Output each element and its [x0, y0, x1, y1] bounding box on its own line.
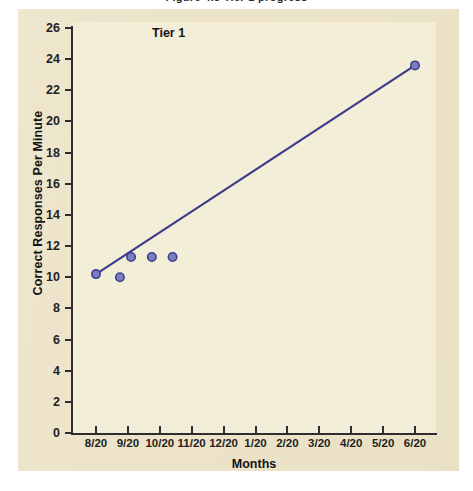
x-tick-mark — [223, 426, 225, 434]
x-tick-mark — [286, 426, 288, 434]
y-tick-label-wrap: 16 — [30, 178, 60, 190]
y-tick-mark — [65, 401, 72, 403]
y-tick-mark — [65, 89, 72, 91]
y-tick-label-wrap: 6 — [30, 334, 60, 346]
y-tick-mark — [65, 276, 72, 278]
y-tick-label: 2 — [30, 396, 60, 409]
y-tick-label-wrap: 22 — [30, 84, 60, 96]
y-tick-label: 26 — [30, 22, 60, 35]
y-tick-label: 10 — [30, 271, 60, 284]
y-tick-label-wrap: 24 — [30, 53, 60, 65]
y-tick-label-wrap: 14 — [30, 209, 60, 221]
plot-area — [72, 22, 436, 434]
x-tick-mark — [382, 426, 384, 434]
chart-page: Figure 4.3 Tier 1 progress Tier 1 Correc… — [0, 0, 473, 491]
y-tick-label: 22 — [30, 84, 60, 97]
y-tick-label-wrap: 12 — [30, 240, 60, 252]
y-tick-label: 4 — [30, 365, 60, 378]
x-tick-mark — [95, 426, 97, 434]
y-tick-label-wrap: 26 — [30, 22, 60, 34]
y-tick-label-wrap: 4 — [30, 365, 60, 377]
y-axis-line — [71, 26, 73, 435]
x-tick-mark — [191, 426, 193, 434]
y-tick-label: 6 — [30, 334, 60, 347]
y-tick-mark — [65, 432, 72, 434]
y-tick-label-wrap: 20 — [30, 115, 60, 127]
y-tick-label: 12 — [30, 240, 60, 253]
cropped-header-text: Figure 4.3 Tier 1 progress — [0, 0, 473, 3]
x-tick-label: 6/20 — [393, 438, 437, 450]
y-tick-label-wrap: 18 — [30, 147, 60, 159]
x-axis-title: Months — [72, 457, 436, 471]
y-tick-label-wrap: 10 — [30, 271, 60, 283]
y-tick-mark — [65, 245, 72, 247]
x-tick-mark — [350, 426, 352, 434]
y-tick-label: 14 — [30, 209, 60, 222]
x-tick-mark — [318, 426, 320, 434]
y-tick-label: 24 — [30, 53, 60, 66]
y-tick-mark — [65, 370, 72, 372]
y-tick-mark — [65, 58, 72, 60]
y-tick-label: 0 — [30, 427, 60, 440]
y-tick-mark — [65, 183, 72, 185]
y-tick-label: 8 — [30, 302, 60, 315]
y-tick-mark — [65, 339, 72, 341]
y-tick-mark — [65, 214, 72, 216]
y-tick-label: 20 — [30, 115, 60, 128]
y-tick-label-wrap: 8 — [30, 302, 60, 314]
x-tick-mark — [159, 426, 161, 434]
chart-title: Tier 1 — [152, 26, 185, 40]
y-tick-mark — [65, 307, 72, 309]
y-tick-label-wrap: 2 — [30, 396, 60, 408]
cropped-page-header: Figure 4.3 Tier 1 progress — [0, 0, 473, 9]
y-tick-mark — [65, 120, 72, 122]
y-tick-label-wrap: 0 — [30, 427, 60, 439]
x-tick-mark — [255, 426, 257, 434]
y-tick-mark — [65, 27, 72, 29]
y-tick-label: 18 — [30, 147, 60, 160]
y-tick-label: 16 — [30, 178, 60, 191]
x-tick-mark — [414, 426, 416, 434]
x-tick-mark — [127, 426, 129, 434]
y-tick-mark — [65, 152, 72, 154]
